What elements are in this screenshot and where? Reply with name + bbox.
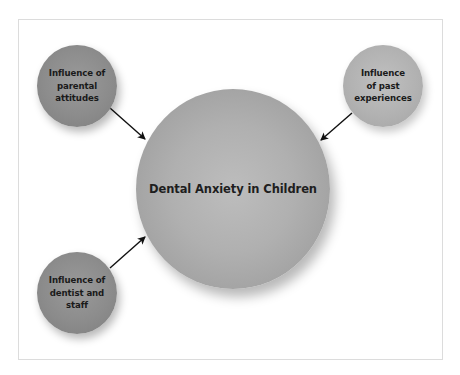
central-node: Dental Anxiety in Children (136, 89, 330, 289)
central-node-label: Dental Anxiety in Children (149, 182, 317, 196)
node-parental-attitudes: Influence of parental attitudes (37, 45, 117, 127)
node-dentist-and-staff-label: Influence of dentist and staff (49, 274, 105, 312)
node-dentist-and-staff: Influence of dentist and staff (37, 252, 117, 334)
node-parental-attitudes-label: Influence of parental attitudes (49, 67, 105, 105)
node-past-experiences-label: Influence of past experiences (354, 67, 411, 105)
node-past-experiences: Influence of past experiences (343, 45, 423, 127)
